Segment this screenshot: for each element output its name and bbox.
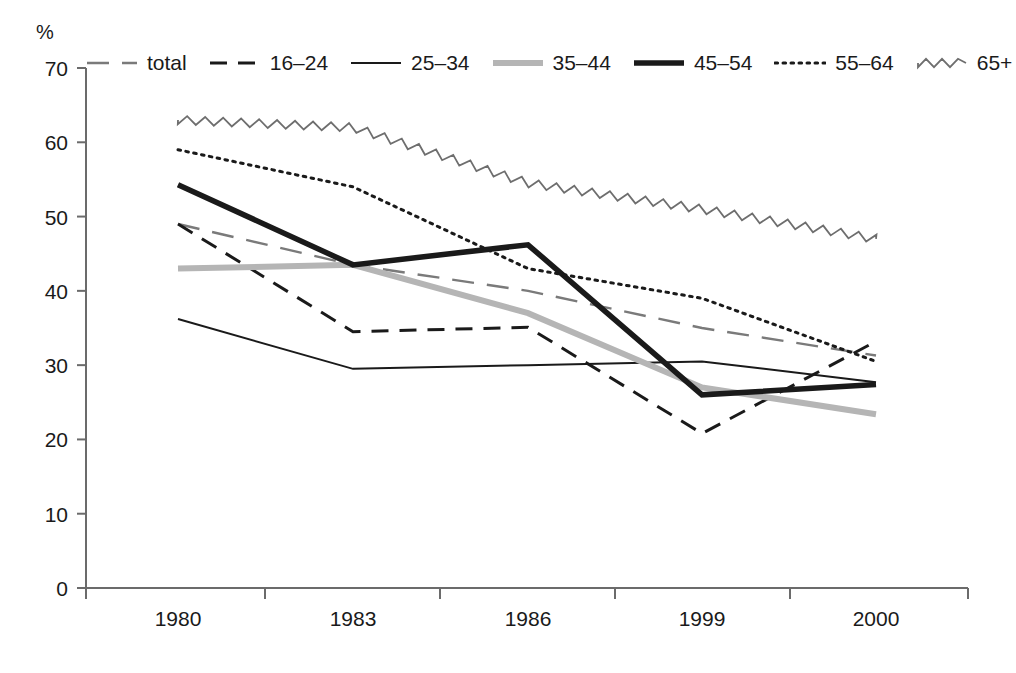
x-tick-label: 1983 — [330, 607, 377, 630]
y-tick-label: 50 — [45, 206, 68, 229]
series-line-55-64 — [178, 150, 876, 362]
y-tick-label: 30 — [45, 354, 68, 377]
y-tick-label: 40 — [45, 280, 68, 303]
x-tick-label: 1980 — [155, 607, 202, 630]
y-tick-label: 20 — [45, 428, 68, 451]
y-tick-label: 60 — [45, 131, 68, 154]
x-tick-label: 2000 — [853, 607, 900, 630]
y-tick-label: 10 — [45, 503, 68, 526]
series-line-16-24 — [178, 224, 876, 433]
y-tick-label: 70 — [45, 57, 68, 80]
y-tick-label: 0 — [56, 577, 68, 600]
x-tick-label: 1986 — [505, 607, 552, 630]
x-tick-label: 1999 — [679, 607, 726, 630]
series-line-65+ — [178, 116, 877, 241]
